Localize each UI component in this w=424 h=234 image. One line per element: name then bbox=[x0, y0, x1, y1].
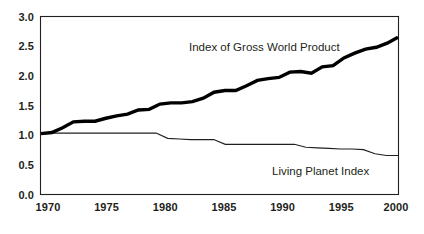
x-tick-label-1980: 1980 bbox=[153, 201, 178, 213]
x-tick-label-1995: 1995 bbox=[329, 201, 354, 213]
y-tick-label-2-5: 2.5 bbox=[18, 40, 34, 52]
line-chart: 3.0 2.5 2.0 1.5 1.0 0.5 0.0 1970 1975 19… bbox=[0, 0, 424, 234]
x-tick-label-1985: 1985 bbox=[212, 201, 237, 213]
chart-background bbox=[0, 0, 424, 234]
annotation-living-planet-index: Living Planet Index bbox=[272, 165, 369, 177]
y-tick-label-0-5: 0.5 bbox=[18, 159, 34, 171]
x-tick-label-2000: 2000 bbox=[384, 201, 409, 213]
y-tick-label-1-0: 1.0 bbox=[18, 129, 34, 141]
y-tick-label-2-0: 2.0 bbox=[18, 70, 34, 82]
x-tick-label-1990: 1990 bbox=[270, 201, 295, 213]
x-tick-label-1975: 1975 bbox=[94, 201, 119, 213]
y-tick-label-0-0: 0.0 bbox=[18, 189, 34, 201]
x-tick-label-1970: 1970 bbox=[36, 201, 61, 213]
annotation-gross-world-product: Index of Gross World Product bbox=[189, 41, 340, 53]
y-tick-label-1-5: 1.5 bbox=[18, 100, 34, 112]
y-tick-label-3-0: 3.0 bbox=[18, 11, 34, 23]
chart-container: 3.0 2.5 2.0 1.5 1.0 0.5 0.0 1970 1975 19… bbox=[0, 0, 424, 234]
